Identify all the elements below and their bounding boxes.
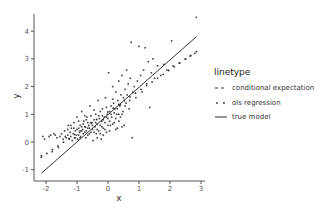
data-point [120, 116, 122, 118]
data-point [125, 102, 127, 104]
data-point [138, 46, 140, 48]
data-point [84, 115, 86, 117]
dashed-line-icon [214, 83, 228, 93]
data-point [104, 122, 106, 124]
data-points [41, 17, 198, 157]
data-point [96, 137, 98, 139]
svg-text:1: 1 [137, 185, 141, 193]
data-point [93, 132, 95, 134]
data-point [100, 133, 102, 135]
data-point [110, 105, 112, 107]
data-point [77, 138, 79, 140]
data-point [90, 115, 92, 117]
data-point [81, 126, 83, 128]
data-point [127, 83, 129, 85]
data-point [56, 137, 58, 139]
x-axis-ticks: -2-10123 [43, 181, 204, 193]
data-point [95, 114, 97, 116]
svg-text:-1: -1 [74, 185, 81, 193]
data-point [67, 129, 69, 131]
data-point [70, 125, 72, 127]
data-point [115, 91, 117, 93]
data-point [119, 105, 121, 107]
data-point [87, 134, 89, 136]
data-point [76, 129, 78, 131]
data-point [79, 125, 81, 127]
data-point [130, 42, 132, 44]
data-point [194, 53, 196, 55]
svg-text:3: 3 [199, 185, 203, 193]
data-point [113, 122, 115, 124]
data-point [61, 133, 63, 135]
data-point [103, 134, 105, 136]
legend-item-ols-regression: ols regression [214, 96, 321, 111]
data-point [112, 86, 114, 88]
legend-title: linetype [214, 66, 321, 78]
data-point [89, 105, 91, 107]
data-point [100, 125, 102, 127]
data-point [78, 120, 80, 122]
data-point [82, 123, 84, 125]
data-point [126, 94, 128, 96]
data-point [123, 97, 125, 99]
data-point [103, 127, 105, 129]
data-point [110, 114, 112, 116]
data-point [115, 129, 117, 131]
data-point [87, 122, 89, 124]
data-point [89, 133, 91, 135]
data-point [48, 136, 50, 138]
data-point [130, 78, 132, 80]
data-point [128, 108, 130, 110]
data-point [73, 127, 75, 129]
data-point [59, 136, 61, 138]
data-point [73, 122, 75, 124]
data-point [75, 130, 77, 132]
data-point [72, 140, 74, 142]
data-point [82, 129, 84, 131]
solid-line-icon [214, 112, 228, 122]
data-point [102, 108, 104, 110]
data-point [82, 133, 84, 135]
data-point [151, 72, 153, 74]
data-point [97, 100, 99, 102]
data-point [85, 137, 87, 139]
data-point [64, 130, 66, 132]
legend: linetype conditional expectation ols reg… [214, 66, 321, 125]
y-axis-ticks: -101234 [22, 28, 34, 175]
data-point [113, 102, 115, 104]
data-point [196, 17, 198, 19]
data-point [95, 133, 97, 135]
svg-text:0: 0 [106, 185, 110, 193]
data-point [124, 89, 126, 91]
data-point [96, 129, 98, 131]
data-point [99, 118, 101, 120]
data-point [140, 75, 142, 77]
svg-text:-2: -2 [43, 185, 50, 193]
data-point [42, 136, 44, 138]
data-point [105, 97, 107, 99]
data-point [53, 133, 55, 135]
data-point [98, 115, 100, 117]
data-point [154, 78, 156, 80]
svg-text:4: 4 [25, 28, 30, 36]
data-point [160, 75, 162, 77]
data-point [106, 132, 108, 134]
data-point [84, 132, 86, 134]
data-point [78, 134, 80, 136]
svg-text:3: 3 [25, 55, 29, 63]
data-point [152, 58, 154, 60]
data-point [121, 114, 123, 116]
data-point [121, 75, 123, 77]
data-point [115, 118, 117, 120]
data-point [81, 130, 83, 132]
data-point [113, 112, 115, 114]
data-point [120, 94, 122, 96]
data-point [124, 105, 126, 107]
data-point [98, 130, 100, 132]
data-point [135, 97, 137, 99]
data-point [171, 40, 173, 42]
data-point [101, 126, 103, 128]
data-point [149, 107, 151, 109]
data-point [118, 80, 120, 82]
data-point [100, 111, 102, 113]
